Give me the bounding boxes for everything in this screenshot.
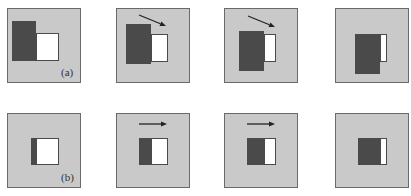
panel-b-3 <box>224 113 298 188</box>
white-square <box>36 138 59 165</box>
arrow-icon <box>116 8 190 83</box>
panel-a-2 <box>116 8 190 83</box>
dark-rectangle <box>12 21 36 61</box>
arrow-icon <box>116 113 190 188</box>
white-square <box>36 33 59 61</box>
arrow-icon <box>224 113 298 188</box>
white-square <box>380 138 387 165</box>
row-label: (b) <box>61 171 74 183</box>
panel-b-4 <box>335 113 409 188</box>
dark-rectangle <box>355 34 380 74</box>
panel-b-1: (b) <box>7 113 81 188</box>
dark-rectangle <box>358 138 380 165</box>
arrow-icon <box>224 8 298 83</box>
panel-a-4 <box>335 8 409 83</box>
panel-b-2 <box>116 113 190 188</box>
white-square <box>380 34 387 62</box>
panel-a-3 <box>224 8 298 83</box>
dark-rectangle <box>31 138 36 165</box>
row-label: (a) <box>61 66 73 78</box>
panel-a-1: (a) <box>7 8 81 83</box>
